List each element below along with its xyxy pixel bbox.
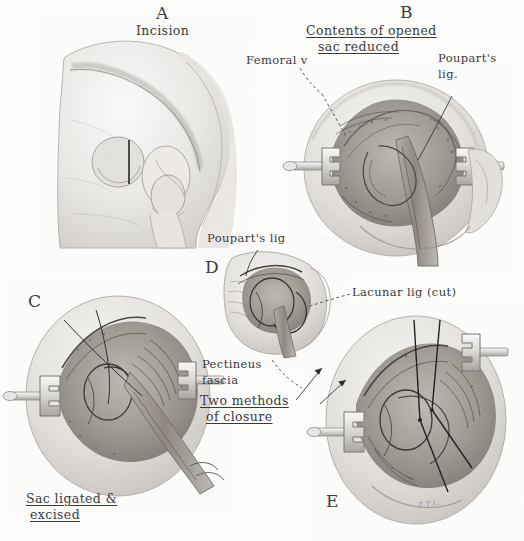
panel-letter-c: C bbox=[28, 292, 42, 311]
annotation-pectineus-line1: Pectineus bbox=[202, 358, 262, 371]
annotation-lacunar-lig: Lacunar lig (cut) bbox=[352, 286, 456, 299]
annotation-poupart-lig-b-line1: Poupart's bbox=[438, 52, 497, 65]
leader-pectineus bbox=[272, 360, 302, 388]
panel-c-caption-line1: Sac ligated & bbox=[26, 492, 117, 506]
panel-b-caption-line2: sac reduced bbox=[318, 40, 399, 54]
annotation-two-methods-line1: Two methods bbox=[200, 394, 289, 408]
illustration-plate: A Incision B Contents of opened sac redu… bbox=[0, 0, 524, 541]
panel-b-caption-line1: Contents of opened bbox=[306, 24, 437, 38]
annotation-poupart-lig-b-line2: lig. bbox=[438, 68, 458, 81]
panel-letter-a: A bbox=[156, 4, 169, 23]
annotation-poupart-lig-d: Poupart's lig bbox=[207, 232, 286, 245]
panel-b-figure bbox=[283, 80, 504, 266]
panel-d-figure bbox=[222, 248, 336, 360]
annotation-femoral-vein: Femoral v bbox=[246, 54, 308, 67]
panel-a-caption: Incision bbox=[136, 24, 189, 38]
panel-letter-b: B bbox=[400, 3, 414, 22]
panel-letter-e: E bbox=[326, 492, 339, 511]
annotation-two-methods-line2: of closure bbox=[206, 410, 273, 424]
panel-c-caption-line2: excised bbox=[30, 508, 80, 522]
panel-letter-d: D bbox=[205, 258, 220, 277]
panel-c-figure bbox=[3, 296, 224, 496]
panel-a-figure bbox=[56, 36, 237, 250]
plate-artwork bbox=[0, 0, 524, 541]
annotation-pectineus-line2: fascia bbox=[202, 374, 238, 387]
